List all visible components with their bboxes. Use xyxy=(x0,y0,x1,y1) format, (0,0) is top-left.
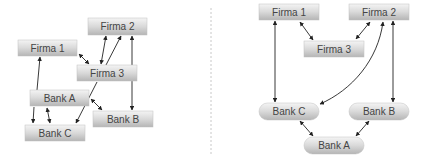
diagram-canvas: Firma 2 Firma 1 Firma 3 Bank A Bank B Ba… xyxy=(0,0,426,161)
node-firma2-left: Firma 2 xyxy=(88,18,147,35)
svg-text:Bank C: Bank C xyxy=(273,106,306,117)
svg-text:Bank B: Bank B xyxy=(363,106,396,117)
node-banka-right: Bank A xyxy=(304,137,364,154)
edge-bankc-banka xyxy=(300,121,313,136)
edge-banka-bankc-b xyxy=(47,108,50,123)
node-bankc-left: Bank C xyxy=(25,125,85,141)
edge-firma2-firma3 xyxy=(356,22,370,39)
svg-text:Firma 3: Firma 3 xyxy=(90,68,124,79)
edge-firma3-firma2 xyxy=(101,36,106,64)
node-bankb-left: Bank B xyxy=(93,111,153,127)
node-firma1-right: Firma 1 xyxy=(259,4,319,20)
right-diagram: Firma 1 Firma 2 Firma 3 Bank C Bank B Ba… xyxy=(259,4,409,154)
node-banka-left: Bank A xyxy=(30,90,89,106)
edge-firma1-firma3 xyxy=(300,22,313,40)
node-bankb-right: Bank B xyxy=(349,103,409,120)
edge-firma2-bankc xyxy=(320,22,383,104)
svg-text:Firma 2: Firma 2 xyxy=(362,7,396,18)
svg-text:Firma 1: Firma 1 xyxy=(272,7,306,18)
node-firma2-right: Firma 2 xyxy=(349,4,409,20)
edge-bankb-banka xyxy=(356,121,369,136)
svg-text:Bank A: Bank A xyxy=(44,93,76,104)
svg-text:Firma 3: Firma 3 xyxy=(317,44,351,55)
edge-banka-bankc xyxy=(33,107,34,123)
svg-text:Bank C: Bank C xyxy=(39,128,72,139)
edge-firma1-firma3 xyxy=(79,54,89,64)
edge-banka-firma1 xyxy=(37,57,40,90)
edge-firma3-firma2-b xyxy=(106,36,121,65)
node-firma1-left: Firma 1 xyxy=(18,40,77,56)
svg-text:Firma 1: Firma 1 xyxy=(31,43,65,54)
svg-text:Firma 2: Firma 2 xyxy=(101,21,135,32)
edge-banka-bankb xyxy=(91,99,102,110)
svg-text:Bank A: Bank A xyxy=(318,140,350,151)
node-firma3-right: Firma 3 xyxy=(304,41,364,57)
node-firma3-left: Firma 3 xyxy=(77,65,137,81)
node-bankc-right: Bank C xyxy=(259,103,319,120)
svg-text:Bank B: Bank B xyxy=(107,114,140,125)
